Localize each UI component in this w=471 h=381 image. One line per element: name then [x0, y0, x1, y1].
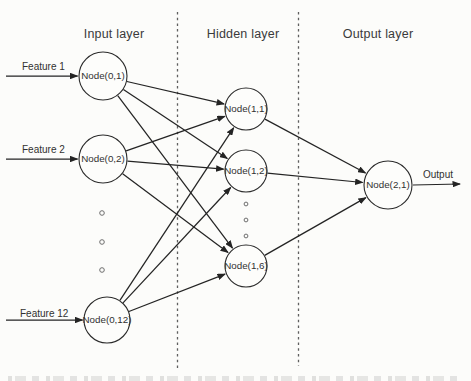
- ellipsis-dot-hidden-1: [244, 202, 248, 206]
- ellipsis-dot-input-1: [100, 211, 105, 216]
- edge-input-12-to-hidden-1: [120, 128, 234, 301]
- edge-input-12-to-hidden-2: [123, 187, 231, 302]
- node-label-input-2: Node(0,2): [81, 153, 125, 164]
- edge-input-1-to-hidden-6: [118, 96, 233, 248]
- ellipsis-dot-hidden-3: [244, 234, 248, 238]
- edge-input-2-to-hidden-1: [126, 116, 225, 150]
- node-label-output-1: Node(2,1): [366, 179, 410, 190]
- edge-hidden-2-to-output-1: [267, 173, 362, 182]
- feature-label-2: Feature 2: [22, 144, 65, 155]
- output-arrow: [413, 184, 460, 185]
- neural-network-figure: Input layer Hidden layer Output layer Fe…: [0, 0, 471, 381]
- ellipsis-dot-input-3: [100, 268, 105, 273]
- edge-input-2-to-hidden-6: [123, 174, 228, 253]
- edge-input-12-to-hidden-6: [129, 274, 225, 311]
- node-label-input-1: Node(0,1): [81, 70, 125, 81]
- ellipsis-dot-input-2: [100, 240, 105, 245]
- output-label: Output: [423, 169, 453, 180]
- edge-input-1-to-hidden-1: [127, 82, 224, 104]
- node-label-hidden-1: Node(1,1): [224, 103, 268, 114]
- ellipsis-dot-hidden-2: [244, 218, 248, 222]
- edge-hidden-1-to-output-1: [265, 119, 366, 173]
- feature-label-1: Feature 1: [22, 61, 65, 72]
- feature-label-3: Feature 12: [20, 308, 69, 319]
- edge-hidden-6-to-output-1: [265, 198, 366, 256]
- node-label-hidden-6: Node(1,6): [224, 260, 268, 271]
- network-diagram-svg: Feature 1Feature 2Feature 12Output Node(…: [0, 0, 471, 381]
- node-label-hidden-2: Node(1,2): [224, 165, 268, 176]
- node-label-input-12: Node(0,12): [82, 314, 131, 325]
- cropped-caption-artifact: [8, 376, 461, 381]
